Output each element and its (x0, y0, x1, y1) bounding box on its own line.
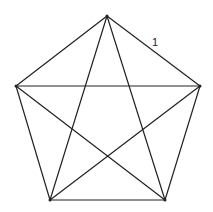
edge-left-bottom-right (16, 86, 165, 200)
edge-top-bottom-left (50, 16, 107, 200)
vertex-bottom-left (49, 199, 52, 202)
edge-bottom-left-left (16, 86, 50, 200)
edge-right-bottom-right (165, 86, 200, 200)
edge-label: 1 (152, 36, 158, 48)
vertex-top (106, 15, 109, 18)
vertex-bottom-right (164, 199, 167, 202)
edge-left-top (16, 16, 107, 86)
edge-top-right (107, 16, 200, 86)
vertex-left (15, 85, 18, 88)
complete-graph-diagram: 1 (0, 0, 213, 212)
edges (15, 15, 202, 202)
edge-right-bottom-left (50, 86, 200, 200)
vertex-right (199, 85, 202, 88)
